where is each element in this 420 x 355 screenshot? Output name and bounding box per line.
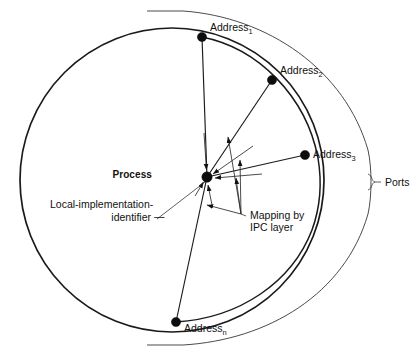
label-address-3: Address3 xyxy=(313,148,356,163)
port-circle-arc xyxy=(176,37,320,322)
label-address-2-base: Address xyxy=(280,64,319,76)
mapping-leader-line xyxy=(241,214,246,216)
label-address-3-subscript: 3 xyxy=(352,154,356,163)
label-address-n-base: Address xyxy=(184,322,223,334)
label-address-1-base: Address xyxy=(210,21,249,33)
spoke-to-address-n xyxy=(176,177,207,322)
spoke-to-address-1 xyxy=(202,37,207,177)
label-local-identifier-line2: identifier xyxy=(111,211,151,223)
process-boundary-circle xyxy=(20,28,324,332)
node-process xyxy=(202,172,212,182)
mapping-arrow-out-4 xyxy=(207,205,241,214)
label-address-1-subscript: 1 xyxy=(249,27,253,36)
label-address-3-base: Address xyxy=(313,148,352,160)
label-address-2: Address2 xyxy=(280,64,323,79)
port-circle-group xyxy=(176,37,320,322)
spoke-to-address-2 xyxy=(207,80,272,177)
figure-container: Address1 Address2 Address3 Addressn Proc… xyxy=(0,0,420,355)
node-address-3 xyxy=(300,150,309,159)
mapping-arrow-in-4 xyxy=(208,185,212,205)
label-address-n: Addressn xyxy=(184,322,227,337)
label-local-identifier-dash: — xyxy=(154,210,165,222)
label-address-n-subscript: n xyxy=(223,328,227,337)
label-mapping-line2: IPC layer xyxy=(250,221,294,233)
label-process: Process xyxy=(112,169,152,180)
label-ports: Ports xyxy=(385,176,410,188)
labels-group: Address1 Address2 Address3 Addressn Proc… xyxy=(50,21,410,337)
mapping-arrow-in-3 xyxy=(215,174,262,178)
spoke-to-address-3 xyxy=(207,155,305,177)
ports-brace-icon xyxy=(368,174,375,190)
label-mapping-line1: Mapping by xyxy=(250,209,305,221)
node-address-n xyxy=(171,317,180,326)
diagram-canvas: Address1 Address2 Address3 Addressn Proc… xyxy=(0,0,420,355)
node-address-2 xyxy=(267,75,276,84)
node-address-1 xyxy=(197,32,206,41)
label-address-2-subscript: 2 xyxy=(319,70,323,79)
label-local-identifier-line1: Local-implementation- xyxy=(50,198,154,210)
